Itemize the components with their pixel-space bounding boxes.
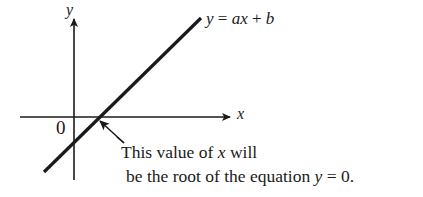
equation-variable: x bbox=[240, 9, 248, 28]
equation-plus: + bbox=[248, 9, 266, 28]
equation-label: y = ax + b bbox=[206, 10, 274, 27]
linear-function-root-diagram: y x 0 y = ax + b This value of x will be… bbox=[0, 0, 423, 197]
caption-line1-prefix: This value of bbox=[121, 142, 218, 162]
caption-line1-suffix: will bbox=[226, 142, 258, 162]
y-axis-label: y bbox=[66, 2, 73, 18]
x-axis-label: x bbox=[237, 106, 244, 122]
equation-lhs: y bbox=[206, 9, 214, 28]
caption-line1-variable: x bbox=[218, 142, 226, 162]
equation-equals: = bbox=[214, 9, 232, 28]
caption-line2-suffix: = 0. bbox=[322, 166, 354, 186]
equation-constant: b bbox=[266, 9, 275, 28]
equation-coefficient: a bbox=[232, 9, 241, 28]
caption-line-2: be the root of the equation y = 0. bbox=[121, 164, 354, 188]
origin-label: 0 bbox=[56, 118, 66, 137]
caption-line2-prefix: be the root of the equation bbox=[126, 166, 315, 186]
callout-caption: This value of x will be the root of the … bbox=[121, 140, 354, 188]
caption-line-1: This value of x will bbox=[121, 142, 257, 162]
